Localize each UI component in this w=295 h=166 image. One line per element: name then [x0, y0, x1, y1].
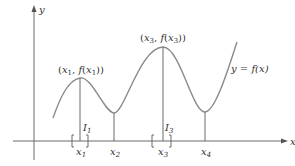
curve-label: y = f(x): [230, 63, 269, 74]
x-axis-arrow-icon: [281, 139, 288, 144]
interval-label-i1: I1: [82, 122, 91, 135]
y-axis: y: [32, 4, 46, 160]
y-axis-arrow-icon: [32, 5, 37, 12]
interval-label-i3: I3: [164, 122, 174, 135]
x-axis-label: x: [290, 136, 295, 147]
y-axis-label: y: [38, 4, 45, 15]
function-graph: y x (x1, f(x1)) (x3, f(x3)) y = f(x) I1 …: [0, 0, 295, 166]
function-curve: [53, 42, 237, 118]
point-label-x3: (x3, f(x3)): [140, 32, 186, 45]
tick-label-x4: x4: [201, 146, 211, 159]
tick-label-x2: x2: [110, 146, 121, 159]
point-label-x1: (x1, f(x1)): [58, 64, 104, 77]
x-axis: x: [13, 136, 295, 147]
tick-label-x1: x1: [76, 146, 86, 159]
tick-label-x3: x3: [158, 146, 169, 159]
